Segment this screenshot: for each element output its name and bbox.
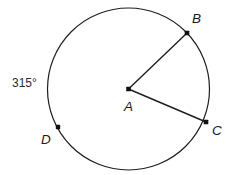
arc-measure-label: 315° (12, 76, 37, 90)
circle-diagram-figure: A B C D 315° (0, 0, 234, 175)
diagram-canvas: A B C D 315° (0, 0, 234, 175)
point-b-label: B (192, 11, 201, 26)
point-a-label: A (123, 99, 133, 114)
point-d-label: D (41, 132, 51, 147)
point-c-label: C (212, 123, 222, 138)
radius-ab-segment (129, 33, 188, 89)
radius-ac-segment (129, 89, 207, 122)
point-b-marker (185, 31, 190, 36)
point-c-marker (204, 120, 209, 125)
point-d-marker (56, 125, 60, 129)
point-a-marker (126, 87, 131, 92)
